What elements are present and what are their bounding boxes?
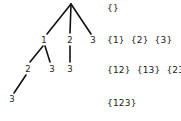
subset-item: {} [107,3,119,13]
tree-node-12: 2 [25,64,30,74]
subset-item: {123} [107,98,137,108]
tree-node-13: 3 [49,64,54,74]
subset-item: {2} [131,35,149,45]
subset-item: {23} [166,65,181,75]
subset-row-singletons: {1} {2} {3} [107,35,172,45]
tree-node-labels: 1 2 3 2 3 3 3 [9,35,95,104]
subset-tree-diagram: 1 2 3 2 3 3 3 {} {1} {2} {3} {12} {13} {… [0,0,181,121]
tree-node-2: 2 [67,35,72,45]
tree-node-23: 3 [67,64,72,74]
edge-12-to-3 [14,75,26,93]
tree-node-3: 3 [90,35,95,45]
subset-item: {3} [155,35,173,45]
edge-1-to-3 [45,46,50,62]
subset-item: {12} [107,65,131,75]
tree-diagram: 1 2 3 2 3 3 3 [0,0,106,121]
subset-list: {} {1} {2} {3} {12} {13} {23} {123} [107,0,181,121]
edge-root-to-2 [70,4,71,33]
subset-item: {13} [137,65,161,75]
tree-node-123: 3 [9,94,14,104]
edge-root-to-3 [71,4,91,34]
subset-item: {1} [107,35,125,45]
edge-1-to-2 [30,46,43,62]
subset-row-pairs: {12} {13} {23} [107,65,181,75]
tree-edges [14,4,91,93]
subset-row-full: {123} [107,98,137,108]
subset-row-empty: {} [107,3,119,13]
edge-root-to-1 [47,4,71,34]
tree-node-1: 1 [41,35,46,45]
